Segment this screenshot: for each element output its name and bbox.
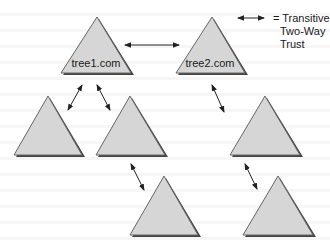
- trust-arrow-tree2-t5: [212, 85, 224, 112]
- trust-arrow-tree1-t3: [68, 85, 82, 110]
- tree-node-7: [243, 176, 316, 237]
- tree-node-3: [14, 96, 85, 157]
- tree-node-tree2: tree2.com: [176, 17, 248, 75]
- trust-arrow-t4-t6: [131, 164, 144, 190]
- trust-arrow-t5-t7: [245, 164, 257, 189]
- trust-arrow-tree1-t4: [97, 85, 110, 110]
- tree2-label: tree2.com: [186, 57, 235, 69]
- tree-node-tree1: tree1.com: [61, 17, 134, 75]
- legend-line-2: Two-Way: [273, 25, 330, 38]
- legend-line-1: = Transitive: [273, 12, 330, 25]
- legend: = Transitive Two-Way Trust: [273, 12, 330, 51]
- tree-node-5: [230, 96, 303, 157]
- legend-line-3: Trust: [273, 38, 330, 51]
- tree-node-4: [96, 96, 168, 157]
- tree1-label: tree1.com: [72, 57, 121, 69]
- tree-node-6: [130, 176, 201, 237]
